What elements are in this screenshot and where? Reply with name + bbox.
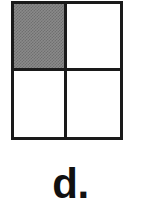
fraction-area-model <box>11 1 123 140</box>
figure-stage: d. <box>0 0 141 204</box>
cell-top-right <box>67 4 120 71</box>
cell-bottom-left <box>14 71 67 138</box>
cell-bottom-right <box>67 71 120 138</box>
cell-top-left-shaded <box>14 4 67 71</box>
option-label: d. <box>0 163 141 204</box>
